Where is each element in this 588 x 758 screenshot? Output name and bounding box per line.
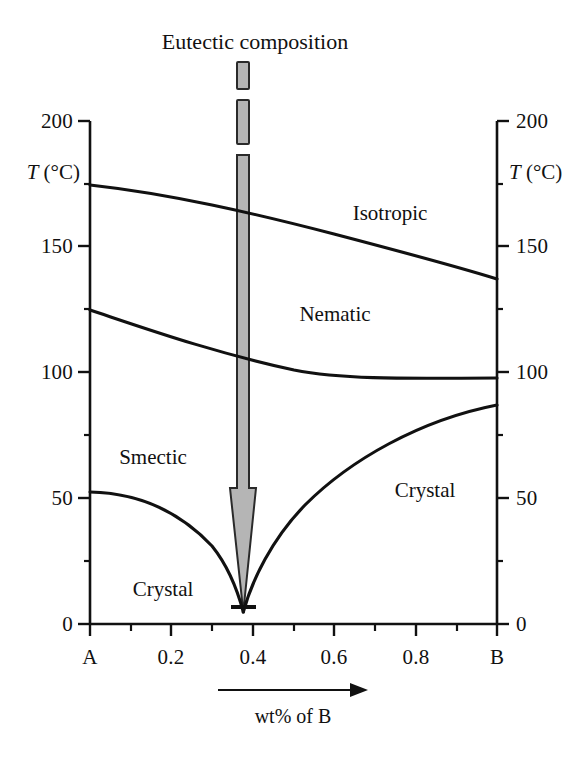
phase-label-nematic: Nematic xyxy=(299,304,370,325)
eutectic-arrow-dash-2 xyxy=(237,100,249,144)
bottom-tick-label-0.6: 0.6 xyxy=(321,647,348,668)
bottom-tick-label-0.2: 0.2 xyxy=(158,647,185,668)
x-axis-label: wt% of B xyxy=(255,706,332,726)
phase-diagram-figure: Eutectic composition 200 150 100 50 0 T … xyxy=(0,0,588,758)
bottom-tick-label-0.4: 0.4 xyxy=(240,647,267,668)
left-tick-label-100: 100 xyxy=(41,362,73,383)
left-tick-label-200: 200 xyxy=(41,111,73,132)
bottom-tick-label-0.8: 0.8 xyxy=(403,647,430,668)
bottom-tick-label-B: B xyxy=(490,647,504,668)
right-tick-label-200: 200 xyxy=(516,111,548,132)
left-axis-title-symbol: T xyxy=(27,160,39,184)
right-tick-label-50: 50 xyxy=(516,488,537,509)
eutectic-arrow-dash-1 xyxy=(237,62,249,89)
phase-label-crystal-b: Crystal xyxy=(395,480,456,501)
right-axis-title-symbol: T xyxy=(509,160,521,184)
right-tick-label-0: 0 xyxy=(516,614,527,635)
right-axis-title-unit: (°C) xyxy=(521,160,563,184)
phase-label-crystal-a: Crystal xyxy=(133,579,194,600)
eutectic-composition-title: Eutectic composition xyxy=(162,31,348,53)
right-axis-title: T (°C) xyxy=(509,162,562,183)
left-axis-title: T (°C) xyxy=(27,162,80,183)
right-tick-label-150: 150 xyxy=(516,236,548,257)
left-tick-label-0: 0 xyxy=(62,614,73,635)
left-tick-label-150: 150 xyxy=(41,236,73,257)
phase-label-isotropic: Isotropic xyxy=(353,203,428,224)
phase-label-smectic: Smectic xyxy=(119,447,187,468)
left-tick-label-50: 50 xyxy=(52,488,73,509)
bottom-tick-label-A: A xyxy=(82,647,97,668)
right-tick-label-100: 100 xyxy=(516,362,548,383)
left-axis-title-unit: (°C) xyxy=(38,160,80,184)
